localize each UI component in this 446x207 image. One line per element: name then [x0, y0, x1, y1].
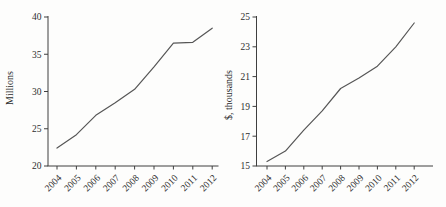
y-tick-label: 20 [32, 161, 42, 171]
x-tick-label: 2011 [382, 173, 402, 193]
y-tick-label: 30 [32, 87, 42, 97]
x-tick-label: 2010 [363, 173, 384, 194]
x-tick-label: 2012 [400, 173, 421, 194]
x-tick-label: 2006 [82, 173, 103, 194]
y-axis-title: Millions [4, 71, 15, 105]
dual-line-chart-figure: 2025303540200420052006200720082009201020… [0, 0, 446, 207]
x-tick-label: 2009 [140, 173, 161, 194]
x-tick-label: 2004 [253, 173, 274, 194]
chart-left-millions: 2025303540200420052006200720082009201020… [0, 0, 223, 207]
y-axis-title: $, thousands [223, 70, 234, 120]
x-tick-label: 2012 [198, 173, 219, 194]
y-tick-label: 15 [241, 161, 251, 171]
x-tick-label: 2008 [121, 173, 142, 194]
x-tick-label: 2007 [308, 173, 329, 194]
y-tick-label: 23 [241, 42, 251, 52]
x-tick-label: 2005 [62, 173, 83, 194]
x-tick-label: 2006 [290, 173, 311, 194]
x-tick-label: 2005 [271, 173, 292, 194]
y-tick-label: 25 [32, 124, 42, 134]
x-tick-label: 2009 [345, 173, 366, 194]
x-tick-label: 2008 [327, 173, 348, 194]
y-tick-label: 17 [241, 132, 251, 142]
y-tick-label: 35 [32, 50, 42, 60]
x-tick-label: 2011 [179, 173, 199, 193]
y-tick-label: 40 [32, 12, 42, 22]
chart-right-dollars-thousands: 1517192123252004200520062007200820092010… [223, 0, 446, 207]
x-tick-label: 2004 [43, 173, 64, 194]
y-tick-label: 19 [241, 102, 251, 112]
data-line-series [267, 23, 414, 162]
y-tick-label: 25 [241, 12, 251, 22]
x-tick-label: 2010 [159, 173, 180, 194]
data-line-series [57, 28, 212, 148]
y-tick-label: 21 [241, 72, 251, 82]
x-tick-label: 2007 [101, 173, 122, 194]
